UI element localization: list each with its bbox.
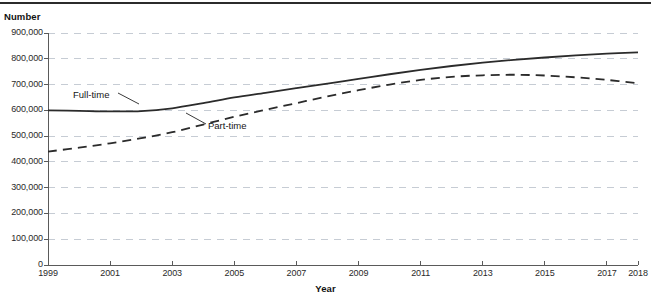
x-axis-tick-label: 2015 (525, 268, 565, 278)
x-axis-tick-label: 2007 (276, 268, 316, 278)
y-axis-tick-label: 200,000 (0, 207, 43, 217)
annotation-leader-line (118, 93, 139, 104)
x-axis-tick-label: 2009 (339, 268, 379, 278)
x-axis-tick-label: 2011 (401, 268, 441, 278)
x-axis-tick-label: 2003 (152, 268, 192, 278)
y-axis-tick-label: 400,000 (0, 156, 43, 166)
y-axis-tick-label: 500,000 (0, 130, 43, 140)
series-label-part-time: Part-time (208, 120, 247, 131)
annotation-leader-line (186, 113, 206, 124)
x-axis-tick-label: 2013 (463, 268, 503, 278)
y-axis-tick-label: 900,000 (0, 27, 43, 37)
x-axis-tick-label: 1999 (28, 268, 68, 278)
y-axis-tick-label: 700,000 (0, 79, 43, 89)
line-chart-plot-area (0, 0, 651, 301)
y-axis-tick-label: 100,000 (0, 233, 43, 243)
x-axis-tick-label: 2001 (90, 268, 130, 278)
series-label-full-time: Full-time (73, 89, 109, 100)
x-axis-tick-label: 2018 (618, 268, 651, 278)
x-axis-title: Year (0, 283, 651, 294)
y-axis-tick-label: 600,000 (0, 104, 43, 114)
y-axis-tick-label: 800,000 (0, 53, 43, 63)
series-line-part-time (48, 75, 638, 152)
y-axis-tick-label: 300,000 (0, 182, 43, 192)
x-axis-tick-label: 2005 (214, 268, 254, 278)
chart-figure: Number 0100,000200,000300,000400,000500,… (0, 0, 651, 301)
